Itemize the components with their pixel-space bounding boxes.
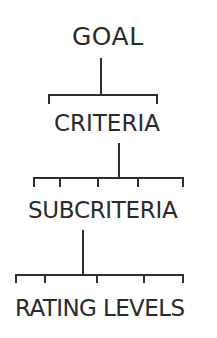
subcriteria-stem — [82, 230, 84, 275]
subcriteria-tick-4 — [143, 274, 145, 283]
level-subcriteria-label: SUBCRITERIA — [28, 199, 177, 222]
criteria-tick-4 — [137, 177, 139, 187]
subcriteria-tick-5 — [182, 274, 184, 283]
level-rating-levels-label: RATING LEVELS — [15, 297, 184, 320]
criteria-stem — [118, 143, 120, 178]
criteria-bar — [33, 177, 183, 179]
subcriteria-bar — [15, 274, 183, 276]
goal-tick-2 — [156, 94, 158, 104]
subcriteria-tick-2 — [44, 274, 46, 283]
criteria-tick-3 — [97, 177, 99, 187]
subcriteria-tick-3 — [96, 274, 98, 283]
criteria-tick-5 — [182, 177, 184, 187]
goal-tick-1 — [48, 94, 50, 104]
level-criteria-label: CRITERIA — [54, 112, 160, 135]
goal-bar — [48, 94, 158, 96]
level-goal-label: GOAL — [72, 24, 144, 49]
goal-stem — [100, 58, 102, 95]
subcriteria-tick-1 — [15, 274, 17, 283]
criteria-tick-2 — [59, 177, 61, 187]
criteria-tick-1 — [33, 177, 35, 187]
